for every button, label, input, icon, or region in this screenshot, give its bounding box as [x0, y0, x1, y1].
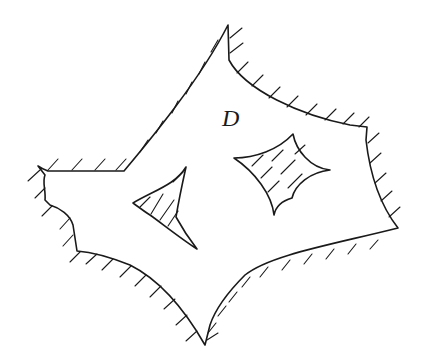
domain-label: D [222, 106, 239, 130]
outer-hatching [28, 28, 400, 341]
quadrilateral-hole-hatching [252, 145, 305, 192]
quadrilateral-hole [234, 134, 330, 215]
domain-diagram [0, 0, 425, 359]
diagram-canvas: D [0, 0, 425, 359]
triangular-hole [133, 167, 197, 249]
outer-boundary [38, 25, 398, 345]
